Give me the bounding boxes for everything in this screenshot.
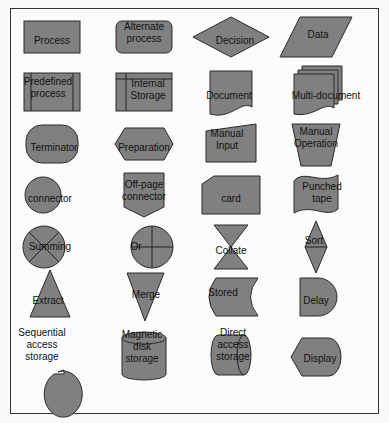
direct-access-storage-label-line-2: access bbox=[217, 339, 248, 350]
extract-shape bbox=[30, 270, 70, 317]
merge-label: Merge bbox=[132, 289, 161, 300]
sequential-access-storage-label-line-1: Sequential bbox=[18, 327, 65, 338]
symbol-sort: Sort bbox=[305, 221, 327, 273]
symbol-data: Data bbox=[280, 17, 352, 57]
punched-tape-label-line-2: tape bbox=[312, 193, 332, 204]
symbol-sequential-access-storage: Sequentialaccessstorage bbox=[18, 327, 82, 417]
manual-input-label-line-1: Manual bbox=[211, 128, 244, 139]
symbol-magnetic-disk-storage: Magneticdiskstorage bbox=[122, 329, 166, 380]
decision-label: Decision bbox=[216, 35, 254, 46]
off-page-connector-label-line-2: connector bbox=[122, 191, 167, 202]
preparation-label: Preparation bbox=[118, 142, 170, 153]
symbol-preparation: Preparation bbox=[115, 128, 173, 160]
symbol-delay: Delay bbox=[300, 278, 337, 316]
symbol-off-page-connector: Off-pageconnector bbox=[122, 173, 167, 217]
sequential-access-storage-shape bbox=[44, 370, 82, 417]
symbol-display: Display bbox=[291, 338, 341, 376]
summing-label: Summing bbox=[29, 241, 71, 252]
extract-label: Extract bbox=[32, 295, 63, 306]
internal-storage-label-line-2: Storage bbox=[130, 90, 165, 101]
internal-storage-label-line-1: Internal bbox=[131, 78, 164, 89]
off-page-connector-label-line-1: Off-page bbox=[125, 179, 164, 190]
magnetic-disk-storage-label-line-2: disk bbox=[133, 341, 152, 352]
magnetic-disk-storage-label-line-3: storage bbox=[125, 353, 159, 364]
symbol-internal-storage: InternalStorage bbox=[116, 73, 172, 111]
symbol-punched-tape: Punchedtape bbox=[294, 175, 342, 213]
direct-access-storage-label-line-3: storage bbox=[216, 351, 250, 362]
symbol-merge: Merge bbox=[127, 273, 164, 321]
symbol-decision: Decision bbox=[193, 17, 269, 57]
symbol-alternate-process: Alternateprocess bbox=[116, 21, 172, 53]
manual-operation-label-line-1: Manual bbox=[300, 126, 333, 137]
sequential-access-storage-label-line-3: storage bbox=[25, 351, 59, 362]
predefined-process-label-line-1: Predefined bbox=[24, 76, 72, 87]
symbol-manual-input: ManualInput bbox=[206, 124, 256, 162]
or-label: Or bbox=[130, 241, 142, 252]
symbol-card: card bbox=[202, 176, 260, 214]
punched-tape-label-line-1: Punched bbox=[302, 181, 341, 192]
stored-label: Stored bbox=[208, 287, 237, 298]
alternate-process-label-line-1: Alternate bbox=[124, 21, 164, 32]
display-label: Display bbox=[304, 353, 337, 364]
document-label: Document bbox=[206, 90, 252, 101]
manual-input-label-line-2: Input bbox=[216, 140, 238, 151]
delay-label: Delay bbox=[303, 295, 329, 306]
connector-label: connector bbox=[28, 193, 73, 204]
symbol-direct-access-storage: Directaccessstorage bbox=[211, 327, 251, 375]
symbol-process: Process bbox=[24, 21, 80, 53]
alternate-process-label-line-2: process bbox=[126, 33, 161, 44]
symbol-connector: connector bbox=[25, 177, 73, 213]
symbol-multi-document: Multi-document bbox=[292, 66, 361, 115]
manual-operation-label-line-2: Operation bbox=[294, 138, 338, 149]
card-label: card bbox=[221, 193, 240, 204]
symbol-document: Document bbox=[206, 71, 252, 115]
sort-label: Sort bbox=[305, 235, 324, 246]
sequential-access-storage-label-line-2: access bbox=[26, 339, 57, 350]
symbol-extract: Extract bbox=[30, 270, 70, 317]
symbol-stored: Stored bbox=[208, 278, 258, 316]
terminator-label: Terminator bbox=[30, 142, 78, 153]
symbol-manual-operation: ManualOperation bbox=[292, 124, 340, 166]
predefined-process-label-line-2: process bbox=[30, 88, 65, 99]
symbol-collate: Collate bbox=[214, 225, 248, 269]
collate-label: Collate bbox=[215, 245, 247, 256]
direct-access-storage-label-line-1: Direct bbox=[220, 327, 246, 338]
magnetic-disk-storage-label-line-1: Magnetic bbox=[122, 329, 163, 340]
multi-document-label: Multi-document bbox=[292, 90, 361, 101]
process-label: Process bbox=[34, 35, 70, 46]
symbol-or: Or bbox=[130, 226, 173, 268]
symbol-predefined-process: Predefinedprocess bbox=[24, 73, 80, 111]
flowchart-symbols-diagram: ProcessAlternateprocessDecisionDataPrede… bbox=[0, 0, 389, 423]
data-label: Data bbox=[307, 29, 329, 40]
symbol-summing: Summing bbox=[23, 226, 71, 268]
symbol-terminator: Terminator bbox=[26, 125, 78, 163]
